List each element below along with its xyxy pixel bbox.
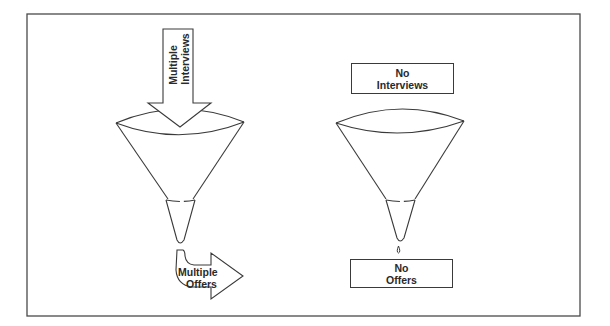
label-line-1: Multiple [178,266,230,278]
label-line-2: Offers [178,278,230,290]
diagram-frame [27,14,580,316]
label-line-2: Offers [386,274,417,286]
multiple-offers-label: Multiple Offers [178,266,230,290]
label-line-1: No [396,67,410,79]
left-funnel-icon [116,109,244,243]
label-line-1: No [395,262,409,274]
label-line-1: Multiple [167,23,179,107]
no-interviews-box: No Interviews [351,63,454,94]
right-funnel-icon [336,109,464,241]
label-line-2: Interviews [377,79,428,91]
diagram-graphics [0,0,610,326]
label-line-2: Interviews [179,23,191,107]
diagram-canvas: Multiple Interviews Multiple Offers No I… [0,0,610,326]
multiple-interviews-label: Multiple Interviews [167,23,193,107]
no-offers-box: No Offers [350,259,453,288]
drip-icon [397,246,400,253]
